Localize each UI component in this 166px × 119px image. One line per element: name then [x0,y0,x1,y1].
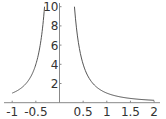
y-tick-label: 10 [43,0,58,14]
axes [4,3,160,103]
y-tick-label: 2 [51,77,59,91]
x-tick-label: 1.5 [121,105,140,119]
curve-left-branch [12,7,44,93]
x-tick-label: 0.5 [74,105,93,119]
plot-area: -1-0.50.511.52246810 [0,0,166,119]
x-tick-label: -1 [6,105,18,119]
x-tick-label: -0.5 [24,105,47,119]
x-tick-label: 1 [103,105,111,119]
x-tick-label: 2 [150,105,158,119]
y-tick-label: 8 [51,19,59,33]
y-tick-label: 4 [51,58,59,72]
curve-right-branch [74,7,154,101]
curves [12,7,154,101]
y-tick-label: 6 [51,39,59,53]
